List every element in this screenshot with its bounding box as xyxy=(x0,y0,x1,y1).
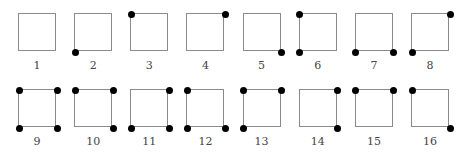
corner-dot-bl-icon xyxy=(296,49,303,56)
corner-dot-tl-icon xyxy=(240,87,247,94)
corner-dot-tr-icon xyxy=(110,87,117,94)
configuration-cell: 15 xyxy=(355,89,411,155)
corner-dot-br-icon xyxy=(447,125,454,132)
cell-label: 6 xyxy=(299,59,337,72)
configuration-cell: 11 xyxy=(130,89,186,155)
square-outline xyxy=(74,13,112,51)
configuration-cell: 14 xyxy=(299,89,355,155)
square-outline xyxy=(18,13,56,51)
square-outline xyxy=(411,13,449,51)
corner-dot-bl-icon xyxy=(240,125,247,132)
cell-label: 15 xyxy=(355,135,393,148)
square-outline xyxy=(299,89,337,127)
cell-label: 9 xyxy=(18,135,56,148)
cell-label: 4 xyxy=(186,59,224,72)
cell-label: 3 xyxy=(130,59,168,72)
corner-dot-tr-icon xyxy=(54,87,61,94)
corner-dot-bl-icon xyxy=(72,49,79,56)
configuration-cell: 3 xyxy=(130,13,186,83)
corner-dot-br-icon xyxy=(278,49,285,56)
corner-dot-br-icon xyxy=(334,125,341,132)
corner-dot-br-icon xyxy=(54,125,61,132)
configuration-cell: 5 xyxy=(243,13,299,83)
configuration-cell: 7 xyxy=(355,13,411,83)
corner-dot-tl-icon xyxy=(409,87,416,94)
corner-dot-bl-icon xyxy=(352,49,359,56)
corner-dot-tl-icon xyxy=(352,87,359,94)
corner-dot-tr-icon xyxy=(390,87,397,94)
corner-dot-bl-icon xyxy=(128,125,135,132)
configuration-cell: 16 xyxy=(411,89,464,155)
square-outline xyxy=(186,89,224,127)
cell-label: 13 xyxy=(243,135,281,148)
configuration-cell: 2 xyxy=(74,13,130,83)
square-outline xyxy=(299,13,337,51)
corner-dot-br-icon xyxy=(166,125,173,132)
cell-label: 10 xyxy=(74,135,112,148)
cell-label: 5 xyxy=(243,59,281,72)
configuration-cell: 12 xyxy=(186,89,242,155)
cell-label: 8 xyxy=(411,59,449,72)
square-outline xyxy=(243,89,281,127)
corner-dot-bl-icon xyxy=(16,125,23,132)
corner-dot-tl-icon xyxy=(16,87,23,94)
cell-label: 11 xyxy=(130,135,168,148)
corner-dot-tl-icon xyxy=(296,11,303,18)
square-outline xyxy=(130,13,168,51)
configuration-cell: 1 xyxy=(18,13,74,83)
corner-dot-bl-icon xyxy=(409,49,416,56)
corner-dot-tr-icon xyxy=(447,11,454,18)
corner-dot-br-icon xyxy=(222,125,229,132)
square-outline xyxy=(355,89,393,127)
configuration-cell: 9 xyxy=(18,89,74,155)
square-outline xyxy=(411,89,449,127)
corner-dot-bl-icon xyxy=(184,125,191,132)
configuration-cell: 4 xyxy=(186,13,242,83)
square-outline xyxy=(186,13,224,51)
cell-label: 7 xyxy=(355,59,393,72)
configuration-cell: 10 xyxy=(74,89,130,155)
cell-label: 1 xyxy=(18,59,56,72)
square-outline xyxy=(74,89,112,127)
cell-label: 12 xyxy=(186,135,224,148)
corner-dot-tr-icon xyxy=(222,11,229,18)
corner-dot-br-icon xyxy=(110,125,117,132)
corner-dot-tl-icon xyxy=(184,87,191,94)
cell-label: 16 xyxy=(411,135,449,148)
square-outline xyxy=(243,13,281,51)
cell-label: 2 xyxy=(74,59,112,72)
square-outline xyxy=(130,89,168,127)
square-outline xyxy=(18,89,56,127)
corner-dot-tl-icon xyxy=(128,11,135,18)
corner-dot-tr-icon xyxy=(334,87,341,94)
cell-label: 14 xyxy=(299,135,337,148)
corner-dot-tl-icon xyxy=(72,87,79,94)
configuration-cell: 6 xyxy=(299,13,355,83)
corner-dot-tr-icon xyxy=(278,87,285,94)
corner-dot-br-icon xyxy=(390,49,397,56)
square-outline xyxy=(355,13,393,51)
configuration-cell: 13 xyxy=(243,89,299,155)
corner-dot-tr-icon xyxy=(166,87,173,94)
configuration-cell: 8 xyxy=(411,13,464,83)
